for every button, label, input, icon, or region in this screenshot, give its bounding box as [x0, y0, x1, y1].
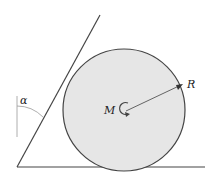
- radius-label: R: [186, 78, 195, 91]
- diagram-canvas: α R M: [0, 0, 215, 178]
- angle-arc: [17, 106, 43, 117]
- disk: [63, 49, 185, 171]
- moment-label: M: [103, 104, 116, 117]
- angle-label: α: [20, 94, 28, 107]
